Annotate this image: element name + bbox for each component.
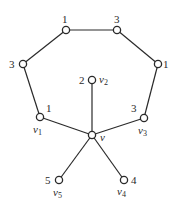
weight-v3: 3 bbox=[131, 102, 137, 114]
edge-c-v1 bbox=[23, 64, 40, 117]
weight-v5: 5 bbox=[45, 174, 51, 186]
node-v2 bbox=[88, 76, 95, 83]
weight-v2: 2 bbox=[79, 74, 85, 86]
label-v4: v4 bbox=[117, 185, 126, 199]
weight-v4: 4 bbox=[131, 174, 137, 186]
edges bbox=[23, 30, 158, 180]
node-v3 bbox=[140, 114, 147, 121]
label-v3: v3 bbox=[138, 124, 147, 138]
label-v1: v1 bbox=[33, 123, 42, 137]
edge-v-v5 bbox=[59, 135, 92, 180]
weight-b: 3 bbox=[114, 13, 120, 25]
label-v: v bbox=[100, 131, 105, 143]
graph-diagram: 1 3 3 1 1 2 3 4 5 v2 v1 v3 v v5 v4 bbox=[0, 0, 179, 211]
node-v1 bbox=[36, 113, 43, 120]
edge-v-v4 bbox=[92, 135, 124, 180]
node-b bbox=[113, 26, 120, 33]
edge-b-d bbox=[117, 30, 158, 64]
label-v2: v2 bbox=[99, 73, 108, 87]
edge-a-c bbox=[23, 30, 66, 64]
weight-a: 1 bbox=[62, 13, 68, 25]
node-v bbox=[88, 131, 95, 138]
weight-d: 1 bbox=[163, 58, 169, 70]
weight-labels: 1 3 3 1 1 2 3 4 5 bbox=[9, 13, 169, 186]
node-v5 bbox=[55, 176, 62, 183]
node-d bbox=[154, 60, 161, 67]
weight-c: 3 bbox=[9, 58, 15, 70]
node-v4 bbox=[120, 176, 127, 183]
node-c bbox=[19, 60, 26, 67]
weight-v1: 1 bbox=[46, 102, 52, 114]
edge-d-v3 bbox=[144, 64, 158, 118]
edge-v1-v bbox=[40, 117, 92, 135]
node-a bbox=[62, 26, 69, 33]
label-v5: v5 bbox=[53, 186, 62, 200]
